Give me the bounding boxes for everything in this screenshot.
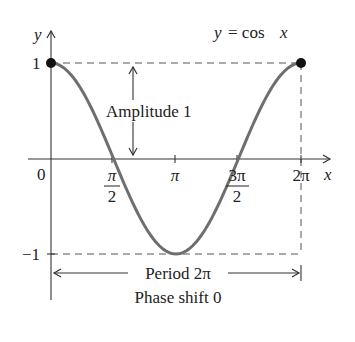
period-label: Period 2π — [145, 264, 211, 283]
phase-shift-label: Phase shift 0 — [135, 288, 222, 307]
y-tick-label-one: 1 — [32, 54, 41, 73]
cosine-chart: y x y = cos x 1 −1 0 π 2 π 3π 2 2π Ampli… — [0, 0, 355, 342]
y-axis-label: y — [32, 25, 42, 44]
x-tick-label-2pi: 2π — [292, 166, 310, 185]
x-tick-label-pi: π — [171, 166, 180, 185]
chart-title: y = cos x — [212, 23, 288, 42]
svg-text:x: x — [279, 23, 288, 42]
point-start — [46, 58, 56, 68]
svg-text:2: 2 — [108, 187, 117, 206]
y-tick-label-neg-one: −1 — [22, 245, 40, 264]
svg-text:2: 2 — [233, 187, 242, 206]
svg-text:π: π — [108, 166, 117, 185]
point-end — [296, 58, 306, 68]
origin-label: 0 — [37, 165, 46, 184]
x-tick-label-3pi-half: 3π 2 — [226, 166, 249, 206]
x-axis-label: x — [323, 165, 332, 184]
svg-text:y: y — [212, 23, 222, 42]
svg-text:3π: 3π — [228, 166, 246, 185]
svg-text:= cos: = cos — [228, 23, 265, 42]
amplitude-label: Amplitude 1 — [106, 102, 191, 121]
